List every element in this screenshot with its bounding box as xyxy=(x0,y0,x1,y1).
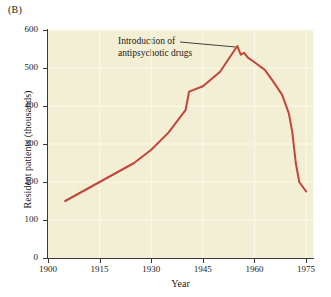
x-tick-1915 xyxy=(100,259,101,263)
annotation-line-1: Introduction of xyxy=(118,36,192,48)
y-tick-0 xyxy=(43,258,47,259)
y-axis-line xyxy=(47,29,48,259)
x-axis-title: Year xyxy=(48,278,313,289)
y-tick-500 xyxy=(43,68,47,69)
x-tick-1900 xyxy=(48,259,49,263)
x-tick-1930 xyxy=(151,259,152,263)
x-axis-line xyxy=(47,258,314,259)
x-tick-1960 xyxy=(254,259,255,263)
x-tick-1975 xyxy=(306,259,307,263)
y-tick-200 xyxy=(43,182,47,183)
x-tick-label-1975: 1975 xyxy=(297,265,315,274)
y-tick-300 xyxy=(43,144,47,145)
x-tick-label-1900: 1900 xyxy=(39,265,57,274)
x-tick-label-1960: 1960 xyxy=(245,265,263,274)
annotation-antipsychotic-drugs: Introduction of antipsychotic drugs xyxy=(118,36,192,59)
figure-panel-b: (B) 0100200300400500600 1900191519301945… xyxy=(0,0,331,297)
y-tick-label-0: 0 xyxy=(34,253,39,262)
y-tick-label-600: 600 xyxy=(25,25,39,34)
y-tick-100 xyxy=(43,220,47,221)
annotation-line-2: antipsychotic drugs xyxy=(118,48,192,60)
x-tick-1945 xyxy=(203,259,204,263)
y-tick-600 xyxy=(43,30,47,31)
y-axis-title: Resident patients (thousands) xyxy=(22,60,33,240)
y-tick-400 xyxy=(43,106,47,107)
x-tick-label-1945: 1945 xyxy=(194,265,212,274)
x-tick-label-1930: 1930 xyxy=(142,265,160,274)
x-tick-label-1915: 1915 xyxy=(91,265,109,274)
panel-label: (B) xyxy=(8,4,22,15)
plot-area xyxy=(48,30,313,258)
